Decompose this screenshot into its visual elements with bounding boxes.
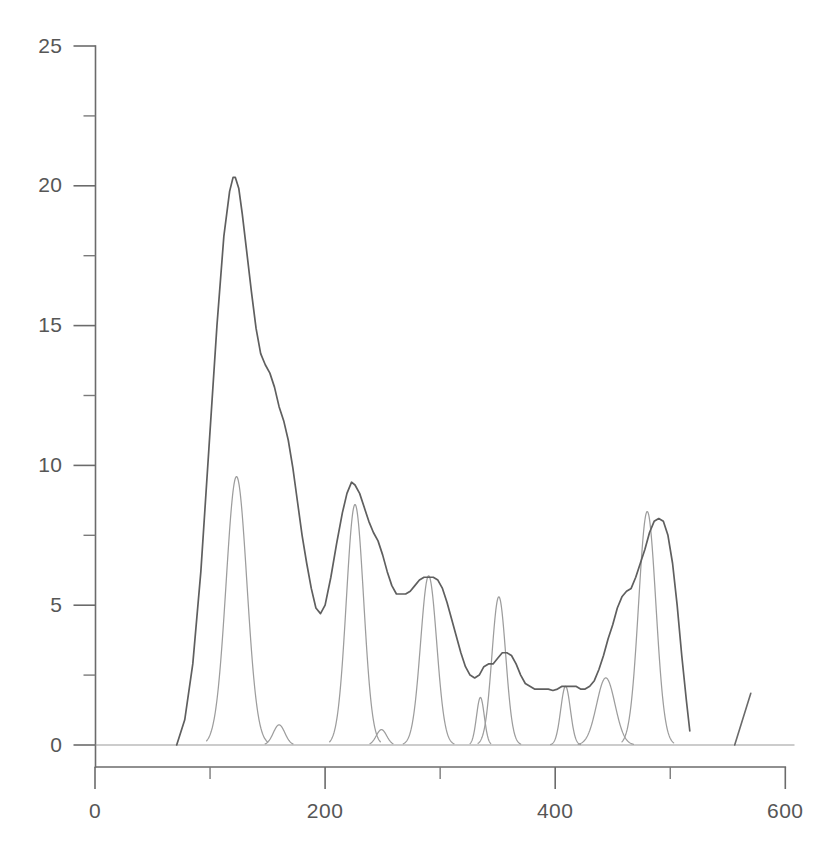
component-peak-curve (370, 730, 393, 744)
component-peak-curve (207, 477, 268, 742)
extra-line-segments (735, 693, 751, 745)
component-peak-curve (265, 725, 293, 744)
y-tick-labels: 0510152025 (38, 34, 62, 756)
x-tick-label: 600 (767, 799, 804, 822)
envelope-curve (177, 177, 690, 745)
chart-container: 0510152025 0200400600 (0, 0, 838, 846)
x-tick-labels: 0200400600 (89, 799, 804, 822)
component-peak-curve (551, 686, 581, 744)
y-tick-label: 10 (38, 453, 62, 476)
component-peaks (207, 477, 674, 745)
spectrum-line-chart: 0510152025 0200400600 (0, 0, 838, 846)
x-tick-label: 400 (537, 799, 574, 822)
x-axis (95, 767, 785, 789)
component-peak-curve (622, 512, 674, 743)
envelope-sum-curve (177, 177, 690, 745)
tail-line-segment (735, 693, 751, 745)
y-tick-label: 25 (38, 34, 62, 57)
y-axis (74, 46, 96, 767)
y-tick-label: 15 (38, 313, 62, 336)
x-tick-label: 0 (89, 799, 101, 822)
x-tick-label: 200 (307, 799, 344, 822)
y-tick-label: 0 (50, 733, 62, 756)
y-tick-label: 5 (50, 593, 62, 616)
y-tick-label: 20 (38, 173, 62, 196)
